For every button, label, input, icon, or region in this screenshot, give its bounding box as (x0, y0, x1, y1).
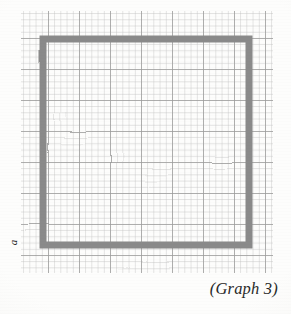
drawn-path-svg (0, 0, 291, 314)
graph-caption: (Graph 3) (210, 281, 278, 298)
gray-rectangle-path (43, 39, 249, 245)
graph-page: a (Graph 3) (0, 0, 291, 314)
axis-label-a-text: a (9, 239, 20, 245)
axis-label-a: a (5, 232, 23, 252)
